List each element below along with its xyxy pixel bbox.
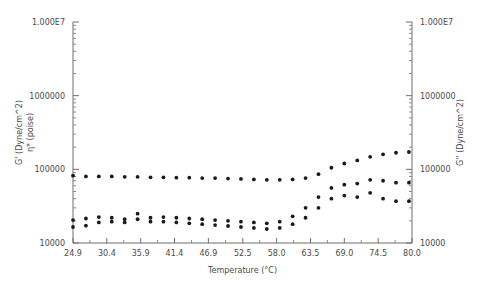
- data-point: [381, 179, 385, 183]
- data-point: [317, 195, 321, 199]
- series-2: [71, 178, 411, 225]
- x-tick-label: 35.9: [132, 249, 150, 258]
- data-point: [226, 177, 230, 181]
- data-point: [394, 151, 398, 155]
- data-point: [149, 216, 153, 220]
- y-tick-label-right: 1000000: [420, 92, 456, 101]
- data-point: [174, 221, 178, 225]
- data-point: [84, 224, 88, 228]
- data-point: [239, 177, 243, 181]
- data-point: [213, 218, 217, 222]
- y-axis-title-left-line1: G' (Dyne/cm^2): [15, 100, 24, 165]
- x-tick-label: 63.5: [302, 249, 320, 258]
- data-point: [200, 217, 204, 221]
- y-tick-label-left: 1.000E7: [32, 18, 65, 27]
- data-point: [174, 216, 178, 220]
- series-0: [71, 150, 411, 182]
- data-point: [84, 217, 88, 221]
- data-point: [342, 194, 346, 198]
- data-point: [213, 223, 217, 227]
- data-point: [317, 206, 321, 210]
- data-point: [278, 226, 282, 230]
- data-point: [110, 175, 114, 179]
- data-point: [355, 195, 359, 199]
- data-point: [265, 221, 269, 225]
- data-point: [265, 178, 269, 182]
- data-point: [330, 197, 334, 201]
- data-point: [136, 217, 140, 221]
- data-point: [407, 150, 411, 154]
- data-point: [355, 159, 359, 163]
- data-point: [291, 214, 295, 218]
- data-point: [123, 217, 127, 221]
- data-point: [239, 220, 243, 224]
- data-point: [123, 175, 127, 179]
- data-point: [110, 220, 114, 224]
- x-tick-label: 80.0: [403, 249, 421, 258]
- y-tick-label-left: 10000: [40, 239, 65, 248]
- data-point: [330, 166, 334, 170]
- data-point: [381, 197, 385, 201]
- y-tick-label-right: 1.000E7: [420, 18, 453, 27]
- data-point: [342, 183, 346, 187]
- data-point: [304, 176, 308, 180]
- data-point: [149, 175, 153, 179]
- data-point: [136, 175, 140, 179]
- y-tick-label-right: 100000: [420, 165, 451, 174]
- data-point: [71, 174, 75, 178]
- data-point: [97, 175, 101, 179]
- data-points-group: [71, 150, 411, 231]
- data-point: [304, 206, 308, 210]
- data-point: [368, 178, 372, 182]
- chart-canvas: 1.000E71.000E710000001000000100000100000…: [0, 0, 480, 297]
- data-point: [174, 176, 178, 180]
- data-point: [291, 222, 295, 226]
- data-point: [213, 176, 217, 180]
- data-point: [136, 212, 140, 216]
- data-point: [71, 225, 75, 229]
- data-point: [97, 215, 101, 219]
- data-point: [187, 217, 191, 221]
- data-point: [110, 216, 114, 220]
- data-point: [394, 199, 398, 203]
- data-point: [381, 152, 385, 156]
- data-point: [278, 178, 282, 182]
- data-point: [355, 182, 359, 186]
- chart-container: 1.000E71.000E710000001000000100000100000…: [0, 0, 480, 297]
- x-tick-label: 41.4: [166, 249, 184, 258]
- data-point: [226, 219, 230, 223]
- data-point: [317, 172, 321, 176]
- x-tick-label: 46.9: [199, 249, 217, 258]
- data-point: [407, 199, 411, 203]
- data-point: [368, 155, 372, 159]
- data-point: [278, 220, 282, 224]
- data-point: [162, 215, 166, 219]
- data-point: [71, 218, 75, 222]
- data-point: [84, 175, 88, 179]
- y-tick-label-left: 1000000: [29, 92, 65, 101]
- axes-group: [73, 22, 412, 243]
- data-point: [330, 186, 334, 190]
- data-point: [265, 227, 269, 231]
- x-tick-label: 58.0: [268, 249, 286, 258]
- data-point: [200, 222, 204, 226]
- data-point: [342, 162, 346, 166]
- data-point: [97, 221, 101, 225]
- y-tick-label-left: 100000: [34, 165, 65, 174]
- series-1: [71, 191, 411, 231]
- data-point: [187, 221, 191, 225]
- data-point: [149, 220, 153, 224]
- data-point: [252, 178, 256, 182]
- x-axis-title: Temperature (°C): [207, 266, 277, 275]
- data-point: [407, 181, 411, 185]
- ticks-group: [73, 22, 412, 243]
- y-axis-title-left-line2: η* (poise): [26, 113, 35, 152]
- data-point: [162, 175, 166, 179]
- x-tick-label: 30.4: [98, 249, 116, 258]
- data-point: [226, 224, 230, 228]
- x-tick-label: 69.0: [335, 249, 353, 258]
- data-point: [394, 181, 398, 185]
- x-tick-label: 74.5: [369, 249, 387, 258]
- data-point: [162, 220, 166, 224]
- data-point: [291, 178, 295, 182]
